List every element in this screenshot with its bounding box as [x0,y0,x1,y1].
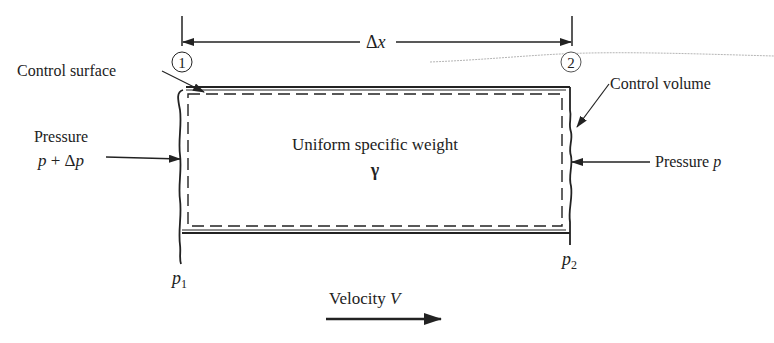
p1-label: p1 [170,268,187,291]
gamma-symbol: γ [370,160,380,180]
control-volume-label: Control volume [610,75,711,92]
pressure-right: Pressure p [572,153,721,171]
control-volume-diagram: Δx 1 2 Control surface Control volume Pr… [0,0,774,343]
control-surface-leader [162,71,204,92]
svg-text:Pressure p: Pressure p [655,153,721,171]
svg-text:1: 1 [178,55,186,71]
faint-sketch-line [430,53,774,62]
station-1-marker: 1 [172,52,192,72]
pressure-left: Pressure p + Δp [34,128,180,170]
control-surface-label: Control surface [17,62,116,79]
control-volume-leader [577,84,609,127]
uniform-weight-label: Uniform specific weight [292,135,458,154]
station-2-marker: 2 [561,52,581,72]
dimension-delta-x: Δx [182,16,572,52]
svg-text:p + Δp: p + Δp [37,151,84,170]
svg-text:2: 2 [567,55,575,71]
p2-label: p2 [560,249,577,272]
dimension-label: Δx [366,32,386,52]
velocity-label: Velocity V [329,289,403,308]
svg-text:Pressure: Pressure [34,128,88,145]
